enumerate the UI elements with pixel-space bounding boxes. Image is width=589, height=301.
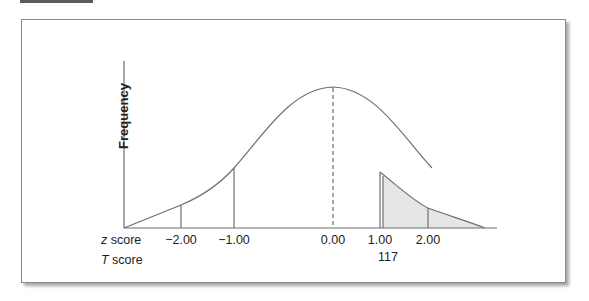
- t-score-row-label: T score: [101, 253, 143, 267]
- y-axis-label: Frequency: [116, 76, 132, 156]
- t-symbol: T: [101, 253, 109, 267]
- t-score-text: score: [109, 253, 143, 267]
- bell-curve: [124, 87, 485, 228]
- z-tick-minus-1: −1.00: [218, 233, 250, 247]
- z-tick-minus-2: −2.00: [165, 233, 197, 247]
- normal-curve-plot: [0, 0, 589, 301]
- z-tick-0: 0.00: [321, 233, 345, 247]
- z-score-row-label: z score: [101, 233, 141, 247]
- z-tick-1: 1.00: [368, 233, 392, 247]
- t-tick-117: 117: [378, 250, 398, 264]
- z-tick-2: 2.00: [416, 233, 440, 247]
- shaded-tail-region: [383, 176, 485, 228]
- z-score-text: score: [107, 233, 141, 247]
